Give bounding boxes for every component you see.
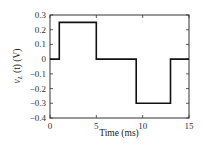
y-tick-label: 0.2 xyxy=(35,25,46,35)
y-tick-label: 0 xyxy=(42,54,47,64)
y-axis-label: vL (t) (V) xyxy=(12,48,24,83)
x-axis-label: Time (ms) xyxy=(99,128,139,139)
y-tick-label: −0.4 xyxy=(30,113,47,123)
x-axis-ticks: 051015 xyxy=(48,15,194,131)
chart: 0.30.20.10−0.1−0.2−0.3−0.4 051015 Time (… xyxy=(0,0,202,149)
y-tick-label: 0.1 xyxy=(35,39,46,49)
y-tick-label: 0.3 xyxy=(35,10,47,20)
y-tick-label: −0.3 xyxy=(30,98,47,108)
x-tick-label: 0 xyxy=(48,121,53,131)
x-tick-label: 10 xyxy=(138,121,148,131)
y-tick-label: −0.1 xyxy=(30,69,46,79)
y-tick-label: −0.2 xyxy=(30,84,46,94)
x-tick-label: 15 xyxy=(185,121,195,131)
y-axis-ticks: 0.30.20.10−0.1−0.2−0.3−0.4 xyxy=(30,10,189,123)
voltage-waveform xyxy=(50,22,189,103)
